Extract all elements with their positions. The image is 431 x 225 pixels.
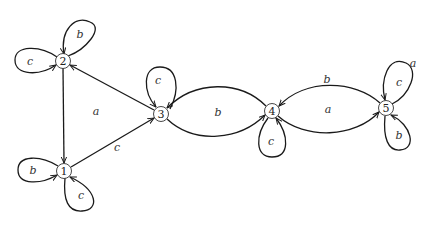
node-2-label: 2: [60, 55, 67, 68]
loop-3-top: [146, 67, 176, 109]
state-diagram: 1 2 3 4 5 a c b a b b c b c c c c a b: [0, 0, 431, 225]
edge-label-4-5: a: [325, 103, 332, 116]
edge-1-to-3: [71, 118, 154, 167]
loop-label-5-top: c: [396, 76, 402, 89]
edge-2-to-1: [63, 68, 64, 163]
loop-label-2-left: c: [27, 55, 33, 68]
edge-label-3-4: b: [214, 106, 221, 119]
edge-label-3-2: a: [93, 105, 100, 118]
node-3: 3: [154, 107, 169, 122]
loop-1-left: [18, 158, 58, 182]
loop-label-5-top-extra: a: [410, 57, 417, 70]
edge-label-5-4: b: [323, 73, 330, 86]
edge-3-to-2: [70, 65, 154, 110]
node-1-label: 1: [61, 165, 68, 178]
node-5-label: 5: [383, 102, 390, 115]
node-3-label: 3: [158, 108, 165, 121]
node-5: 5: [379, 101, 394, 116]
loop-2-left: [15, 48, 57, 72]
loop-label-1-left: b: [29, 164, 36, 177]
node-1: 1: [57, 164, 72, 179]
loop-label-4-bottom: c: [268, 135, 274, 148]
loop-label-1-bottom: c: [78, 189, 84, 202]
loop-label-3-top: c: [155, 74, 161, 87]
edge-label-1-3: c: [114, 141, 120, 154]
loop-label-5-bottom: b: [395, 129, 402, 142]
node-4-label: 4: [269, 105, 276, 118]
node-4: 4: [265, 104, 280, 119]
loop-label-2-top: b: [76, 28, 83, 41]
node-2: 2: [56, 54, 71, 69]
